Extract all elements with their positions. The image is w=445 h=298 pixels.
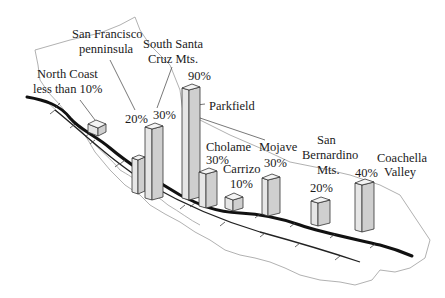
label-north-coast-value: less than 10% — [33, 82, 102, 96]
label-mojave-value: 30% — [264, 156, 287, 170]
bar-mojave — [262, 174, 280, 216]
bar-san-francisco — [132, 155, 145, 194]
label-sf-value: 20% — [125, 112, 148, 126]
label-coachella-name-2: Valley — [384, 165, 417, 179]
label-carrizo-value: 10% — [230, 177, 253, 191]
label-sb-name-3: Mts. — [317, 163, 340, 177]
label-carrizo-name: Carrizo — [223, 162, 260, 176]
label-coachella-name-1: Coachella — [377, 151, 427, 165]
bar-cholame — [199, 168, 217, 208]
label-parkfield-name: Parkfield — [209, 99, 256, 113]
bar-parkfield — [182, 84, 200, 200]
label-ssc-name-1: South Santa — [143, 37, 204, 51]
label-sf-name-2: penninsula — [79, 42, 134, 56]
label-sb-value: 20% — [310, 181, 333, 195]
label-sb-name-1: San — [317, 133, 337, 147]
label-sb-name-2: Bernardino — [302, 148, 358, 162]
label-north-coast-name: North Coast — [37, 67, 98, 81]
label-sf-name-1: San Francisco — [72, 27, 142, 41]
label-parkfield-value: 90% — [188, 69, 211, 83]
label-mojave-name: Mojave — [259, 140, 298, 154]
bar-south-santa-cruz — [145, 123, 163, 200]
bar-carrizo — [225, 193, 243, 211]
label-cholame-name: Cholame — [206, 140, 252, 154]
label-ssc-name-2: Cruz Mts. — [148, 52, 198, 66]
bar-coachella — [355, 179, 374, 232]
label-coachella-value: 40% — [355, 166, 378, 180]
bar-san-bernardino — [311, 197, 330, 226]
label-ssc-value: 30% — [153, 108, 176, 122]
fault-probability-figure: North Coast less than 10% San Francisco … — [0, 0, 445, 298]
labels: North Coast less than 10% San Francisco … — [33, 27, 427, 195]
